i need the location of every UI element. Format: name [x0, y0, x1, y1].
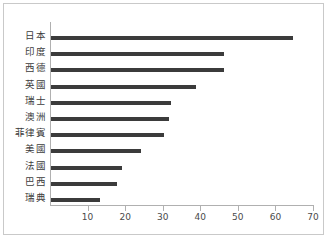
- bar-9: [51, 182, 117, 186]
- x-axis-line: [50, 205, 314, 206]
- x-tick-50: [238, 206, 239, 211]
- category-label-5: 澳洲: [4, 111, 46, 122]
- bar-5: [51, 117, 169, 121]
- x-tick-60: [275, 206, 276, 211]
- x-tick-30: [163, 206, 164, 211]
- bar-6: [51, 133, 164, 137]
- x-tick-label-60: 60: [260, 212, 290, 223]
- y-axis-line: [50, 22, 51, 206]
- category-label-2: 西德: [4, 62, 46, 73]
- x-tick-label-70: 70: [298, 212, 328, 223]
- bar-3: [51, 85, 196, 89]
- x-tick-20: [125, 206, 126, 211]
- category-label-10: 瑞典: [4, 192, 46, 203]
- x-tick-label-40: 40: [185, 212, 215, 223]
- bar-7: [51, 149, 141, 153]
- category-label-6: 菲律賓: [4, 127, 46, 138]
- bar-2: [51, 68, 224, 72]
- x-tick-label-20: 20: [110, 212, 140, 223]
- category-label-4: 瑞士: [4, 95, 46, 106]
- x-tick-40: [200, 206, 201, 211]
- category-label-0: 日本: [4, 30, 46, 41]
- x-tick-10: [88, 206, 89, 211]
- bar-1: [51, 52, 224, 56]
- category-label-1: 印度: [4, 46, 46, 57]
- x-tick-70: [313, 206, 314, 211]
- category-label-7: 美國: [4, 143, 46, 154]
- bar-4: [51, 101, 171, 105]
- bar-8: [51, 166, 122, 170]
- bar-chart-figure: 10203040506070 日本印度西德英國瑞士澳洲菲律賓美國法國巴西瑞典: [0, 0, 328, 239]
- category-label-3: 英國: [4, 79, 46, 90]
- x-tick-label-30: 30: [148, 212, 178, 223]
- bar-0: [51, 36, 293, 40]
- x-tick-label-50: 50: [223, 212, 253, 223]
- bar-10: [51, 198, 100, 202]
- category-label-9: 巴西: [4, 176, 46, 187]
- category-label-8: 法國: [4, 160, 46, 171]
- x-tick-label-10: 10: [73, 212, 103, 223]
